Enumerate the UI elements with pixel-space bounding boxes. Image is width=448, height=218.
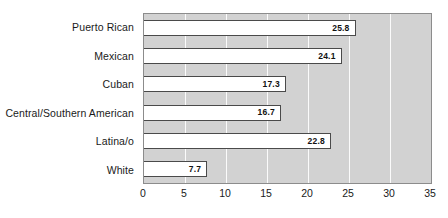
category-label-cuban: Cuban	[0, 70, 139, 99]
bar-value-label: 25.8	[332, 24, 354, 33]
gridline	[431, 14, 432, 183]
bar-value-label: 16.7	[258, 108, 280, 117]
bar-chart-figure: Puerto Rican Mexican Cuban Central/South…	[0, 0, 448, 218]
bar-value-label: 24.1	[318, 52, 340, 61]
bar-row: 24.1	[144, 42, 431, 70]
category-label-mexican: Mexican	[0, 42, 139, 71]
bar-value-label: 22.8	[308, 137, 330, 146]
category-label-central-southern-american: Central/Southern American	[0, 99, 139, 128]
x-tick-label: 35	[424, 187, 436, 199]
plot-area: 25.8 24.1 17.3 16.7 22.8	[143, 13, 432, 184]
bar-puerto-rican: 25.8	[143, 20, 356, 36]
bar-row: 22.8	[144, 127, 431, 155]
bar-cuban: 17.3	[143, 76, 286, 92]
bars-layer: 25.8 24.1 17.3 16.7 22.8	[144, 14, 431, 183]
bar-value-label: 17.3	[263, 80, 285, 89]
x-tick-label: 5	[181, 187, 187, 199]
bar-mexican: 24.1	[143, 48, 342, 64]
x-tick-label: 10	[219, 187, 231, 199]
x-tick-label: 0	[140, 187, 146, 199]
x-tick-label: 15	[260, 187, 272, 199]
x-axis: 05101520253035	[143, 184, 432, 206]
x-tick-label: 20	[301, 187, 313, 199]
category-label-latina-o: Latina/o	[0, 127, 139, 156]
category-label-puerto-rican: Puerto Rican	[0, 13, 139, 42]
bar-value-label: 7.7	[189, 165, 206, 174]
x-tick-label: 25	[342, 187, 354, 199]
category-label-white: White	[0, 156, 139, 185]
bar-row: 25.8	[144, 14, 431, 42]
bar-latina-o: 22.8	[143, 133, 331, 149]
bar-row: 7.7	[144, 155, 431, 183]
bar-white: 7.7	[143, 161, 207, 177]
bar-row: 16.7	[144, 99, 431, 127]
bar-central-southern-american: 16.7	[143, 105, 281, 121]
bar-row: 17.3	[144, 70, 431, 98]
category-axis: Puerto Rican Mexican Cuban Central/South…	[0, 13, 139, 184]
x-tick-label: 30	[383, 187, 395, 199]
